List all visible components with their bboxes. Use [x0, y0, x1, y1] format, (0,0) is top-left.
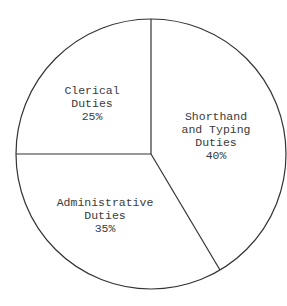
shorthand-line3: Duties [168, 136, 264, 149]
clerical-line2: Duties [52, 97, 132, 110]
shorthand-pct: 40% [168, 149, 264, 162]
administrative-pct: 35% [40, 222, 170, 235]
clerical-line1: Clerical [52, 84, 132, 97]
slice-label-clerical: Clerical Duties 25% [52, 84, 132, 123]
slice-label-administrative: Administrative Duties 35% [40, 196, 170, 235]
administrative-line2: Duties [40, 209, 170, 222]
shorthand-line1: Shorthand [168, 110, 264, 123]
shorthand-line2: and Typing [168, 123, 264, 136]
administrative-line1: Administrative [40, 196, 170, 209]
clerical-pct: 25% [52, 110, 132, 123]
pie-chart: Clerical Duties 25% Shorthand and Typing… [0, 0, 287, 306]
slice-label-shorthand: Shorthand and Typing Duties 40% [168, 110, 264, 162]
